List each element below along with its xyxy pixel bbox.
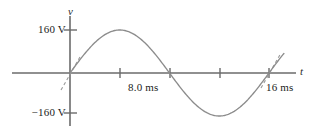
y-tick-label-neg160v: −160 V — [2, 106, 66, 118]
x-tick-label-16ms: 16 ms — [266, 81, 294, 93]
t-axis-label: t — [300, 65, 303, 77]
v-axis-label: v — [68, 5, 73, 17]
sine-waveform-figure: v t 160 V −160 V 8.0 ms 16 ms — [0, 0, 314, 136]
y-tick-label-160v: 160 V — [6, 23, 66, 35]
x-tick-label-8ms: 8.0 ms — [128, 81, 159, 93]
